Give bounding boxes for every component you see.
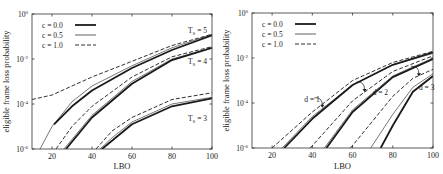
series-line <box>310 56 433 148</box>
series-group <box>272 51 433 148</box>
curve-annotation: d = 1 <box>304 95 320 104</box>
x-tick-label: 60 <box>128 152 136 161</box>
x-tick-label: 100 <box>206 152 218 161</box>
x-axis-label: LBO <box>334 161 351 171</box>
legend-label: c = 0.0 <box>262 20 283 29</box>
y-tick-label: 100 <box>18 10 29 20</box>
x-tick-label: 60 <box>349 151 357 160</box>
legend-label: c = 1.0 <box>42 41 63 50</box>
y-tick-label: 100 <box>238 9 249 19</box>
left-chart: 2040608010010010-210-410-6LBOeligible fr… <box>1 10 218 172</box>
x-tick-label: 80 <box>389 151 397 160</box>
series-line <box>54 35 212 124</box>
legend-label: c = 1.0 <box>262 40 283 49</box>
curve-annotation: d = 3 <box>419 83 435 92</box>
x-tick-label: 80 <box>168 152 176 161</box>
right-chart: 2040608010010010-210-410-6LBOeligible fr… <box>221 9 439 172</box>
y-tick-label: 10-4 <box>16 100 28 110</box>
series-line <box>351 69 434 148</box>
x-tick-label: 20 <box>48 152 56 161</box>
curve-annotation: d = 2 <box>373 88 389 97</box>
x-axis-label: LBO <box>114 161 131 171</box>
figure: 2040608010010010-210-410-6LBOeligible fr… <box>0 0 443 174</box>
legend-label: c = 0.0 <box>42 21 63 30</box>
y-tick-label: 10-2 <box>16 55 28 65</box>
series-group <box>32 34 212 149</box>
x-tick-label: 100 <box>427 151 439 160</box>
legend-label: c = 0.5 <box>262 30 283 39</box>
y-tick-label: 10-6 <box>16 145 28 155</box>
curve-annotation: TS = 5 <box>188 26 207 36</box>
x-tick-label: 20 <box>268 151 276 160</box>
legend-label: c = 0.5 <box>42 31 63 40</box>
y-tick-label: 10-6 <box>236 144 248 154</box>
x-tick-label: 40 <box>308 151 316 160</box>
curve-annotation: TS = 4 <box>188 57 207 67</box>
y-axis-label: eligible frame loss probability <box>221 29 231 132</box>
y-tick-label: 10-2 <box>236 54 248 64</box>
curve-annotation: TS = 3 <box>188 114 207 124</box>
y-axis-label: eligible frame loss probability <box>1 30 11 133</box>
y-tick-label: 10-4 <box>236 99 248 109</box>
x-tick-label: 40 <box>88 152 96 161</box>
series-line <box>40 34 212 149</box>
